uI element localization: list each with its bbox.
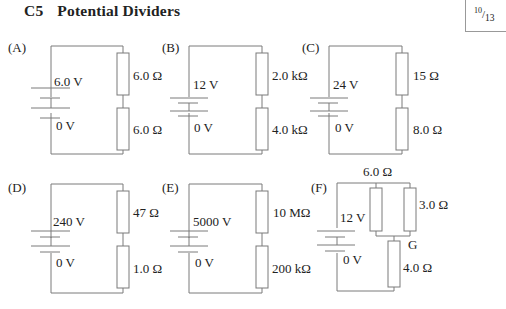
resistor-bottom xyxy=(256,246,268,288)
resistor-top-label: 15 Ω xyxy=(413,68,439,83)
resistor-top xyxy=(396,53,408,95)
resistor-bottom-label: 4.0 kΩ xyxy=(272,122,308,137)
supply-low-label: 0 V xyxy=(56,118,76,133)
resistor-parallel-right xyxy=(404,188,416,231)
resistor-top xyxy=(117,53,129,95)
supply-low-label: 0 V xyxy=(335,120,355,135)
resistor-top-label: 10 MΩ xyxy=(273,205,310,220)
supply-low-label: 0 V xyxy=(56,255,76,270)
circuit-f: (F) 12 V 0 V 6.0 Ω 3.0 Ω G 4.0 Ω xyxy=(311,164,448,291)
circuit-d: (D) 240 V 0 V 47 Ω 1.0 Ω xyxy=(8,180,162,293)
circuit-b: (B) 12 V 0 V 2.0 kΩ 4.0 kΩ xyxy=(162,40,308,154)
circuit-label: (A) xyxy=(8,40,26,55)
resistor-bottom xyxy=(396,108,408,150)
resistor-parallel-left-label: 6.0 Ω xyxy=(363,164,392,179)
supply-high-label: 5000 V xyxy=(193,214,232,229)
wire xyxy=(51,184,123,293)
wire xyxy=(51,46,123,154)
wire xyxy=(329,46,402,154)
supply-high-label: 12 V xyxy=(193,77,219,92)
resistor-parallel-right-label: 3.0 Ω xyxy=(419,197,448,212)
resistor-bottom xyxy=(256,108,268,150)
battery-symbol xyxy=(317,231,355,251)
supply-high-label: 12 V xyxy=(340,210,366,225)
wire xyxy=(189,184,262,293)
resistor-bottom xyxy=(388,241,400,287)
supply-high-label: 6.0 V xyxy=(54,74,83,89)
resistor-top xyxy=(117,191,129,233)
circuit-label: (F) xyxy=(311,180,327,195)
circuit-label: (C) xyxy=(302,40,319,55)
resistor-bottom xyxy=(117,246,129,288)
resistor-bottom-label: 6.0 Ω xyxy=(133,122,162,137)
resistor-bottom-label: 8.0 Ω xyxy=(413,122,442,137)
circuit-a: (A) 6.0 V 0 V 6.0 Ω 6.0 Ω xyxy=(8,40,162,154)
resistor-top xyxy=(256,191,268,233)
resistor-top-label: 6.0 Ω xyxy=(133,68,162,83)
supply-low-label: 0 V xyxy=(194,120,214,135)
wire xyxy=(189,46,262,154)
circuit-e: (E) 5000 V 0 V 10 MΩ 200 kΩ xyxy=(162,180,311,293)
node-g-label: G xyxy=(408,237,417,252)
supply-low-label: 0 V xyxy=(195,255,215,270)
supply-high-label: 24 V xyxy=(333,77,359,92)
supply-high-label: 240 V xyxy=(53,214,86,229)
resistor-bottom-label: 1.0 Ω xyxy=(133,261,162,276)
circuit-label: (B) xyxy=(162,40,179,55)
circuit-c: (C) 24 V 0 V 15 Ω 8.0 Ω xyxy=(302,40,442,154)
resistor-bottom-label: 200 kΩ xyxy=(272,261,311,276)
resistor-top-label: 47 Ω xyxy=(133,205,159,220)
resistor-bottom xyxy=(117,108,129,150)
resistor-top-label: 2.0 kΩ xyxy=(272,68,308,83)
resistor-parallel-left xyxy=(370,188,382,231)
supply-low-label: 0 V xyxy=(343,252,363,267)
resistor-top xyxy=(256,53,268,95)
circuit-label: (D) xyxy=(8,180,26,195)
resistor-bottom-label: 4.0 Ω xyxy=(403,260,432,275)
circuit-label: (E) xyxy=(162,180,179,195)
